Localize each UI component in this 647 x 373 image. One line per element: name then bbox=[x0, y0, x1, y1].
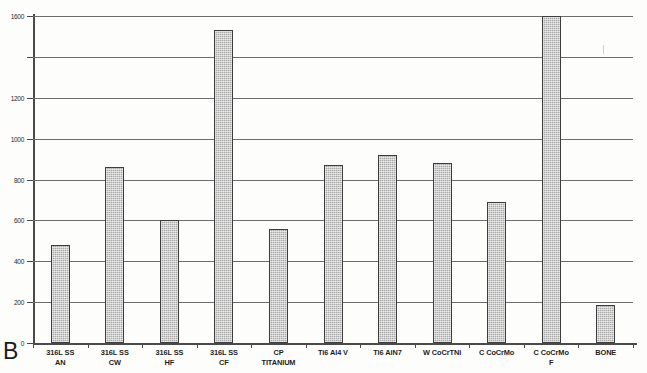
panel-letter: B bbox=[3, 340, 18, 363]
figure-panel-b: 2004006008001000120016000 316L SSAN316L … bbox=[0, 0, 647, 373]
category-label-line1: CP bbox=[273, 348, 283, 357]
x-axis bbox=[33, 343, 637, 345]
x-axis-category-label: CPTITANIUM bbox=[261, 348, 295, 368]
category-label-line2: F bbox=[534, 358, 569, 368]
x-axis-category-label: C CoCrMoF bbox=[534, 348, 569, 368]
category-label-line2: AN bbox=[46, 358, 74, 368]
bar bbox=[160, 220, 179, 343]
y-tick-label: 400 bbox=[14, 258, 24, 265]
x-axis-category-label: 316L SSAN bbox=[46, 348, 74, 368]
category-label-line1: C CoCrMo bbox=[534, 348, 569, 357]
bar bbox=[105, 167, 124, 343]
category-label-line2: TITANIUM bbox=[261, 358, 295, 368]
bar bbox=[433, 163, 452, 343]
bar bbox=[378, 155, 397, 343]
category-label-line1: W CoCrTNi bbox=[423, 348, 461, 357]
category-label-line1: 316L SS bbox=[155, 348, 183, 357]
category-label-line1: 316L SS bbox=[46, 348, 74, 357]
category-label-line1: Ti6 Al4 V bbox=[318, 348, 348, 357]
bar bbox=[214, 30, 233, 343]
category-label-line1: C CoCrMo bbox=[479, 348, 514, 357]
y-tick-label: 1200 bbox=[11, 94, 24, 101]
category-label-line2: HF bbox=[155, 358, 183, 368]
x-axis-category-label: Ti6 AlN7 bbox=[373, 348, 401, 358]
bar bbox=[596, 305, 615, 343]
bar bbox=[487, 202, 506, 343]
y-tick-label: 1600 bbox=[11, 13, 24, 20]
bar bbox=[269, 229, 288, 343]
x-axis-category-label: BONE bbox=[595, 348, 616, 358]
x-tick-mark bbox=[633, 343, 634, 348]
y-tick-label: 200 bbox=[14, 299, 24, 306]
category-label-line1: 316L SS bbox=[101, 348, 129, 357]
x-axis-category-label: 316L SSCW bbox=[101, 348, 129, 368]
y-tick-label: 800 bbox=[14, 176, 24, 183]
x-axis-category-label: 316L SSHF bbox=[155, 348, 183, 368]
category-label-line1: BONE bbox=[595, 348, 616, 357]
x-axis-category-label: C CoCrMo bbox=[479, 348, 514, 358]
category-label-line2: CF bbox=[210, 358, 238, 368]
x-axis-category-label: 316L SSCF bbox=[210, 348, 238, 368]
bar bbox=[542, 16, 561, 343]
x-axis-category-label: W CoCrTNi bbox=[423, 348, 461, 358]
bars-layer bbox=[33, 16, 633, 343]
y-tick-label: 600 bbox=[14, 217, 24, 224]
x-axis-labels: 316L SSAN316L SSCW316L SSHF316L SSCFCPTI… bbox=[33, 348, 633, 373]
category-label-line2: CW bbox=[101, 358, 129, 368]
x-axis-category-label: Ti6 Al4 V bbox=[318, 348, 348, 358]
y-tick-label: 1000 bbox=[11, 135, 24, 142]
bar bbox=[51, 245, 70, 343]
y-tick-label: 0 bbox=[21, 340, 24, 347]
bar bbox=[324, 165, 343, 343]
category-label-line1: Ti6 AlN7 bbox=[373, 348, 401, 357]
category-label-line1: 316L SS bbox=[210, 348, 238, 357]
plot-area: 2004006008001000120016000 bbox=[33, 16, 633, 343]
scan-artifact bbox=[603, 45, 604, 54]
